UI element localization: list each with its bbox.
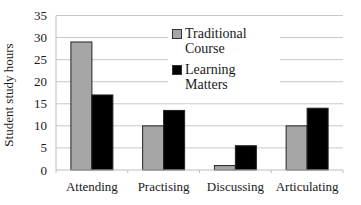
y-axis-label: Student study hours [1,43,16,146]
y-tick-label: 30 [34,30,47,45]
y-tick-label: 0 [41,163,48,178]
legend-item-traditional-course: Traditional Course [172,26,281,56]
bar-learning-matters [307,108,328,170]
legend-label-line1: Traditional [185,26,247,41]
legend-swatch-gray [172,29,182,39]
y-tick-label: 15 [34,96,47,111]
legend-swatch-black [172,65,182,75]
y-tick-labels: 05101520253035 [34,8,47,178]
bar-traditional-course [143,126,164,170]
bar-learning-matters [164,110,185,170]
legend-item-learning-matters: Learning Matters [172,62,281,92]
legend-label-learning-matters: Learning Matters [185,62,281,92]
legend: Traditional Course Learning Matters [168,21,280,83]
legend-label-traditional-course: Traditional Course [185,26,281,56]
x-tick-labels: AttendingPractisingDiscussingArticulatin… [66,179,339,194]
y-tick-label: 10 [34,118,47,133]
bar-traditional-course [214,166,235,170]
legend-label-line2: Course [185,41,225,56]
x-tick-label: Attending [66,179,118,194]
bar-chart: 05101520253035 AttendingPractisingDiscus… [0,0,361,205]
bar-learning-matters [92,95,113,170]
x-tick-label: Articulating [276,179,339,194]
x-tick-label: Practising [138,179,190,194]
bar-traditional-course [71,42,92,170]
y-tick-label: 20 [34,74,47,89]
y-tick-label: 5 [41,140,48,155]
y-tick-label: 35 [34,8,47,23]
bar-learning-matters [235,146,256,170]
bar-traditional-course [286,126,307,170]
x-tick-label: Discussing [207,179,265,194]
y-tick-label: 25 [34,52,47,67]
